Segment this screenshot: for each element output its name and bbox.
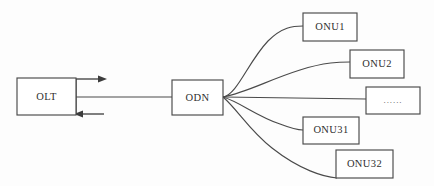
node-olt[interactable]: OLT: [17, 78, 76, 115]
node-onu31[interactable]: ONU31: [303, 117, 359, 144]
node-odn[interactable]: ODN: [172, 80, 223, 115]
olt-label: OLT: [36, 91, 57, 102]
downstream-arrow-head-icon: [98, 76, 107, 83]
upstream-arrow: [74, 111, 104, 118]
link-odn-onu1: [223, 26, 303, 97]
ellipsis-label: ......: [384, 95, 403, 105]
node-ellipsis: ......: [366, 87, 420, 114]
onu1-label: ONU1: [315, 21, 345, 32]
topology-canvas: OLT ODN ONU1 ONU2 ...... ONU31 ONU32: [0, 0, 434, 186]
pon-topology-diagram: OLT ODN ONU1 ONU2 ...... ONU31 ONU32: [0, 0, 434, 186]
link-odn-dots: [223, 97, 366, 99]
link-odn-onu31: [223, 97, 303, 130]
odn-label: ODN: [186, 92, 210, 103]
link-olt-odn: [76, 79, 172, 114]
link-odn-onu2: [223, 62, 350, 97]
onu2-label: ONU2: [362, 58, 392, 69]
onu32-label: ONU32: [347, 158, 382, 169]
node-onu1[interactable]: ONU1: [303, 13, 357, 41]
node-onu32[interactable]: ONU32: [336, 150, 393, 178]
node-onu2[interactable]: ONU2: [350, 50, 404, 78]
downstream-arrow: [76, 76, 107, 83]
onu31-label: ONU31: [313, 124, 348, 135]
